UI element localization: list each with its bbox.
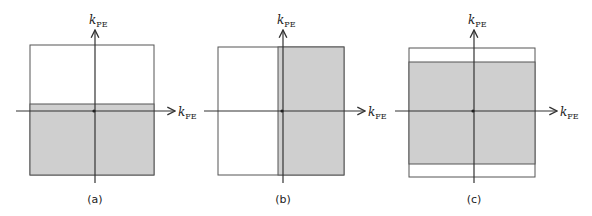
kpe-label: kPE [277, 13, 296, 29]
panel-a: kPEkFE(a) [16, 13, 197, 206]
kfe-label: kFE [560, 105, 579, 121]
kspace-center [92, 109, 95, 112]
kfe-label: kFE [368, 105, 387, 121]
panel-caption: (c) [467, 193, 482, 206]
kpe-label: kPE [89, 13, 108, 29]
panel-caption: (b) [275, 193, 291, 206]
kspace-center [471, 109, 474, 112]
kspace-figure: kPEkFE(a)kPEkFE(b)kPEkFE(c) [0, 0, 592, 216]
kfe-label: kFE [178, 105, 197, 121]
panel-caption: (a) [87, 193, 102, 206]
sampled-region [409, 62, 535, 164]
panel-b: kPEkFE(b) [204, 13, 387, 206]
kspace-center [280, 109, 283, 112]
kpe-label: kPE [468, 13, 487, 29]
sampled-region [30, 104, 154, 175]
panel-c: kPEkFE(c) [395, 13, 579, 206]
